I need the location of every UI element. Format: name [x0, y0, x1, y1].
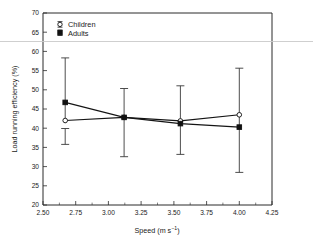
- y-tick-label: 70: [32, 9, 40, 16]
- data-point-children: [63, 118, 68, 123]
- legend-item-children: Children: [58, 20, 96, 29]
- x-axis: 2.50 2.75 3.00 3.25 3.50 3.75 4.00 4.25 …: [37, 201, 279, 235]
- y-axis: 20 25 30 35 40 45 50 55 60 65 70 Load ru…: [10, 9, 47, 208]
- y-tick-label: 45: [32, 105, 40, 112]
- chart-figure: 20 25 30 35 40 45 50 55 60 65 70 Load ru…: [0, 0, 313, 243]
- x-axis-title-tail: ): [177, 226, 179, 235]
- y-axis-title: Load running efficiency (%): [10, 66, 19, 153]
- load-running-efficiency-chart: 20 25 30 35 40 45 50 55 60 65 70 Load ru…: [0, 0, 313, 243]
- y-tick-label: 30: [32, 163, 40, 170]
- x-tick-label: 2.50: [37, 209, 50, 216]
- series-adults-markers: [63, 100, 242, 129]
- series-adults-line: [65, 102, 239, 127]
- x-axis-title: Speed (m s−1): [134, 225, 179, 235]
- x-tick-label: 3.00: [102, 209, 115, 216]
- data-point-children: [237, 113, 242, 118]
- y-tick-label: 50: [32, 86, 40, 93]
- x-tick-label: 2.75: [69, 209, 82, 216]
- x-tick-label: 3.25: [135, 209, 148, 216]
- y-tick-labels: 20 25 30 35 40 45 50 55 60 65 70: [32, 9, 40, 208]
- series-adults-errorbars: [61, 58, 69, 123]
- legend-marker-adults: [58, 31, 62, 35]
- x-tick-label: 4.00: [233, 209, 246, 216]
- y-tick-label: 40: [32, 125, 40, 132]
- x-axis-title-base: Speed (m s: [134, 226, 171, 235]
- legend-item-adults: Adults: [58, 29, 89, 38]
- data-point-adults: [178, 121, 183, 126]
- x-tick-group: [43, 201, 272, 205]
- y-tick-label: 65: [32, 29, 40, 36]
- legend-label-children: Children: [68, 20, 96, 29]
- x-tick-label: 3.50: [167, 209, 180, 216]
- y-tick-label: 60: [32, 48, 40, 55]
- y-tick-label: 55: [32, 67, 40, 74]
- x-tick-labels: 2.50 2.75 3.00 3.25 3.50 3.75 4.00 4.25: [37, 209, 279, 216]
- data-point-adults: [122, 115, 127, 120]
- chart-legend: Children Adults: [58, 20, 96, 38]
- legend-marker-children: [58, 22, 62, 26]
- x-tick-label: 3.75: [200, 209, 213, 216]
- data-point-adults: [237, 125, 242, 130]
- y-tick-label: 35: [32, 144, 40, 151]
- y-tick-label: 25: [32, 182, 40, 189]
- x-tick-label: 4.25: [266, 209, 279, 216]
- legend-label-adults: Adults: [68, 29, 89, 38]
- y-tick-label: 20: [32, 201, 40, 208]
- data-point-adults: [63, 100, 68, 105]
